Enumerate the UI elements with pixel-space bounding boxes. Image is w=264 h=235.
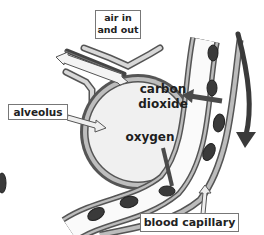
air-label: air in and out: [95, 10, 141, 39]
alveolus-label-text: alveolus: [13, 106, 62, 118]
air-label-line1: air in: [96, 12, 140, 24]
oxygen-label: oxygen: [122, 130, 178, 145]
alveolus-label: alveolus: [8, 104, 68, 120]
carbon-dioxide-line2: dioxide: [135, 97, 191, 112]
oxygen-label-text: oxygen: [125, 130, 174, 144]
blood-capillary-label: blood capillary: [140, 213, 239, 232]
air-label-line2: and out: [96, 24, 140, 36]
carbon-dioxide-line1: carbon: [135, 82, 191, 97]
carbon-dioxide-label: carbon dioxide: [135, 82, 191, 112]
blood-capillary-label-text: blood capillary: [144, 216, 236, 229]
air-exchange-arrows: [56, 51, 128, 85]
